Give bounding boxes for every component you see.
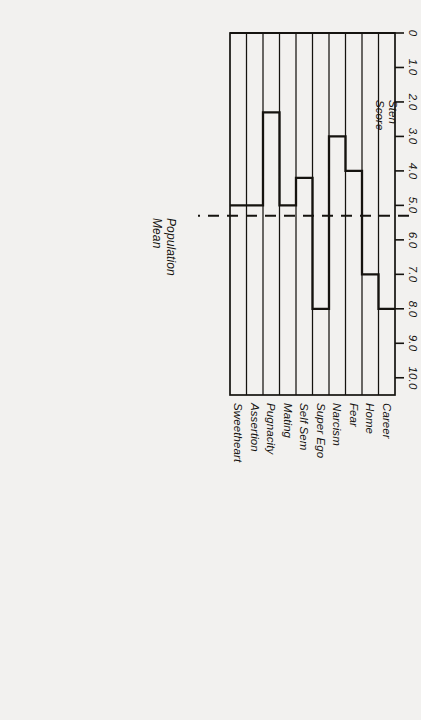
sten-score-profile-chart: 01.02.03.04.05.06.07.08.09.010.0 Sten Sc…	[0, 0, 421, 720]
value-axis-title-text: Sten Score	[374, 100, 400, 131]
value-axis-tick-label: 8.0	[407, 301, 419, 317]
value-axis-tick-label: 10.0	[407, 366, 419, 389]
population-mean-label: Population Mean	[150, 218, 190, 276]
category-label-career: Career	[381, 403, 393, 439]
population-mean-label-text: Population Mean	[150, 218, 177, 276]
category-label-assertion: Assertion	[249, 403, 261, 452]
value-axis-tick-label: 6.0	[407, 232, 419, 248]
value-axis-title: Sten Score	[372, 100, 413, 131]
category-label-narcism: Narcism	[331, 403, 343, 446]
category-label-fear: Fear	[348, 403, 360, 427]
value-axis-tick-label: 9.0	[407, 335, 419, 351]
value-axis-tick-label: 1.0	[407, 59, 419, 75]
category-label-home: Home	[364, 403, 376, 434]
category-label-self-sem: Self Sem	[298, 403, 310, 450]
category-label-mating: Mating	[282, 403, 294, 438]
value-axis-tick-label: 4.0	[407, 163, 419, 179]
value-axis-tick-label: 0	[407, 30, 419, 37]
value-axis-tick-label: 3.0	[407, 128, 419, 144]
value-axis-tick-label: 5.0	[407, 197, 419, 213]
value-axis-tick-label: 7.0	[407, 266, 419, 282]
rotated-figure-wrapper: 01.02.03.04.05.06.07.08.09.010.0 Sten Sc…	[0, 0, 421, 720]
chart-canvas	[0, 0, 421, 720]
category-label-sweetheart: Sweetheart	[232, 403, 244, 462]
category-label-pugnacity: Pugnacity	[265, 403, 277, 454]
axis-ticks	[395, 33, 404, 378]
category-label-super-ego: Super Ego	[315, 403, 327, 458]
